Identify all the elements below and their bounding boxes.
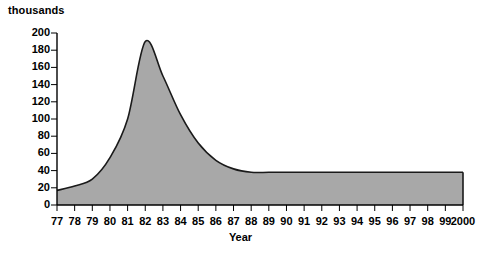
chart-container: thousands 020406080100120140160180200 77…	[0, 0, 481, 256]
area-fill	[57, 40, 463, 205]
chart-plot-area	[0, 0, 481, 256]
x-axis-title: Year	[0, 231, 481, 243]
